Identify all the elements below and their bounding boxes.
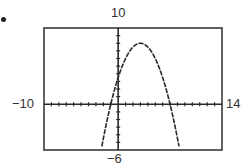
graph-window bbox=[0, 0, 241, 166]
parabola-curve bbox=[102, 43, 179, 146]
